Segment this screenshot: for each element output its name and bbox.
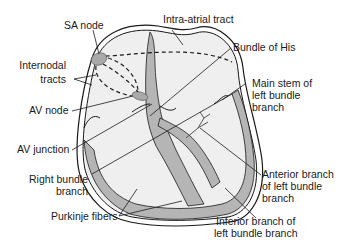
label-right-bundle-1: Right bundle [16,173,88,185]
heart-illustration [0,0,347,244]
label-anterior-2: of left bundle [262,180,322,192]
label-sa-node: SA node [64,19,104,31]
label-av-junction: AV junction [17,143,69,155]
label-inferior-2: left bundle branch [214,227,297,239]
label-inferior-1: Inferior branch of [216,215,295,227]
label-bundle-of-his: Bundle of His [233,41,295,53]
label-av-node: AV node [29,104,69,116]
label-purkinje: Purkinje fibers [51,210,118,222]
label-main-stem-1: Main stem of [252,77,312,89]
label-main-stem-2: left bundle [252,89,300,101]
label-main-stem-3: branch [252,101,284,113]
label-internodal-tracts-2: tracts [14,73,66,85]
conduction-diagram: SA node Intra-atrial tract Bundle of His… [0,0,347,244]
label-intra-atrial-tract: Intra-atrial tract [163,13,234,25]
label-anterior-1: Anterior branch [262,168,334,180]
label-internodal-tracts-1: Internodal [14,59,66,71]
label-right-bundle-2: branch [16,185,88,197]
label-anterior-3: branch [262,192,294,204]
